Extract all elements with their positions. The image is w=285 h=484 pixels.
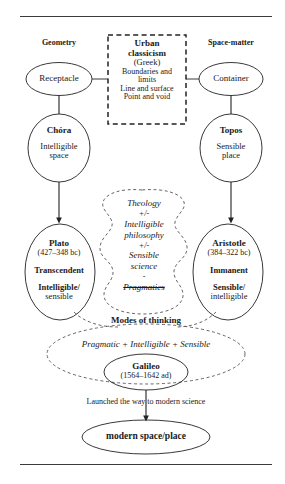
node-plato-text[interactable]: Plato (427–348 bc) Transcendent Intellig… bbox=[21, 239, 97, 301]
node-aristotle-text[interactable]: Aristotle (384–322 bc) Immanent Sensible… bbox=[191, 239, 267, 301]
diagram-root: Geometry Space-matter Receptacle Contain… bbox=[0, 0, 285, 484]
plato-dates: (427–348 bc) bbox=[21, 249, 97, 258]
label-modes-of-thinking: Modes of thinking bbox=[111, 316, 181, 326]
urban-line-7: Point and void bbox=[107, 93, 187, 102]
column-heading-right: Space-matter bbox=[208, 39, 254, 48]
node-container-label[interactable]: Container bbox=[213, 74, 249, 84]
center-line-6: Sensible bbox=[103, 250, 185, 261]
node-center-blob-text[interactable]: Theology +/- Intelligible philosophy +/-… bbox=[103, 198, 185, 293]
node-receptacle-label[interactable]: Receptacle bbox=[39, 74, 78, 84]
aristotle-attr-2b: intelligible bbox=[191, 292, 267, 301]
label-arrow-caption: Launched the way to modern science bbox=[87, 398, 206, 407]
node-urban-classicism-text[interactable]: Urban classicism (Greek) Boundaries and … bbox=[107, 39, 187, 102]
column-heading-left: Geometry bbox=[42, 39, 76, 48]
center-line-2: +/- bbox=[103, 209, 185, 219]
center-line-9: Pragmatics bbox=[103, 282, 185, 293]
aristotle-dates: (384–322 bc) bbox=[191, 249, 267, 258]
plato-attr-1: Transcendent bbox=[21, 266, 97, 275]
center-line-1: Theology bbox=[103, 198, 185, 209]
node-galileo-text[interactable]: Galileo (1564–1642 ad) bbox=[103, 362, 189, 380]
dashed-link-aristotle-synthesis bbox=[176, 312, 216, 327]
node-topos-text[interactable]: Topos Sensible place bbox=[196, 126, 266, 160]
center-line-3: Intelligible bbox=[103, 219, 185, 230]
center-line-8: - bbox=[103, 272, 185, 282]
aristotle-attr-1: Immanent bbox=[191, 266, 267, 275]
center-line-5: +/- bbox=[103, 241, 185, 251]
label-synthesis: Pragmatic + Intelligible + Sensible bbox=[82, 340, 211, 350]
chora-line-2: space bbox=[24, 151, 94, 160]
galileo-dates: (1564–1642 ad) bbox=[103, 372, 189, 381]
topos-title: Topos bbox=[196, 126, 266, 136]
center-line-7: science bbox=[103, 261, 185, 272]
node-modern-label[interactable]: modern space/place bbox=[106, 431, 186, 441]
center-line-4: philosophy bbox=[103, 230, 185, 241]
plato-attr-2b: sensible bbox=[21, 292, 97, 301]
chora-title: Chóra bbox=[24, 126, 94, 136]
node-chora-text[interactable]: Chóra Intelligible space bbox=[24, 126, 94, 160]
topos-line-2: place bbox=[196, 151, 266, 160]
